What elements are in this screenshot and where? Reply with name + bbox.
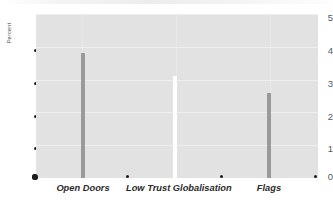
x-category-label-low-trust-globalisation: Low Trust Globalisation: [126, 184, 222, 193]
plot-area: [36, 14, 318, 178]
bar-chart: Percent 5 4 3 2 1 0 Open Doors Low Trust…: [0, 0, 333, 202]
gridline-5: [36, 14, 318, 15]
gridline-3: [36, 80, 318, 81]
gridline-2: [36, 112, 318, 113]
gridline-4: [36, 47, 318, 48]
x-tick-dot-origin: [32, 174, 38, 180]
x-category-label-open-doors: Open Doors: [36, 184, 130, 193]
bar-open-doors: [81, 53, 85, 178]
x-category-label-flags: Flags: [222, 184, 316, 193]
bar-flags: [267, 93, 271, 178]
bar-low-trust-globalisation: [173, 76, 177, 178]
gridline-1: [36, 145, 318, 146]
y-axis-title: Percent: [6, 11, 12, 55]
